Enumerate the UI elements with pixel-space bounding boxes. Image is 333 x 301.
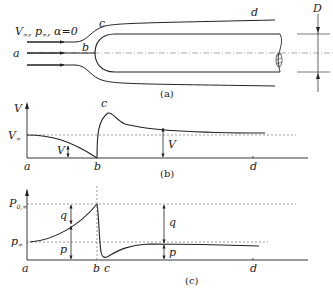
point-b-label: b — [94, 160, 101, 173]
p-label: p — [169, 246, 176, 259]
panel-c: P0,∞ p∞ q p q p a b c d (c) — [8, 186, 308, 286]
velocity-arrow-label: V — [168, 138, 177, 151]
dimension-arrow-icon — [316, 73, 320, 79]
axis-arrow-icon — [25, 102, 29, 109]
p-inf-label: p∞ — [11, 235, 23, 248]
point-c-label: c — [101, 97, 107, 110]
freestream-label: V∞, p∞, α=0 — [15, 25, 78, 38]
p0-inf-label: P0,∞ — [8, 197, 27, 210]
panel-a: D V∞, p∞, α=0 a b c d (a) — [13, 2, 333, 99]
v-inf-label: V∞ — [8, 129, 21, 142]
dimension-arrow-icon — [316, 27, 320, 33]
point-a-label: a — [13, 47, 20, 60]
caption-b: (b) — [160, 168, 174, 179]
diagram-svg: D V∞, p∞, α=0 a b c d (a) V V∞ V V c a b… — [0, 0, 333, 301]
p-label: p — [60, 243, 67, 256]
pressure-curve-surface — [97, 204, 259, 257]
point-b-label: b — [93, 262, 100, 275]
point-c-label: c — [104, 262, 110, 275]
panel-b: V V∞ V V c a b d (b) — [8, 97, 308, 179]
point-a-label: a — [24, 160, 31, 173]
axis-arrow-icon — [25, 189, 29, 196]
point-a-label: a — [22, 262, 29, 275]
point-d-label: d — [250, 160, 257, 173]
dimension-label: D — [312, 2, 322, 15]
figure: D V∞, p∞, α=0 a b c d (a) V V∞ V V c a b… — [0, 0, 333, 301]
velocity-curve-surface — [97, 113, 265, 158]
y-axis-label: V — [14, 102, 23, 115]
caption-a: (a) — [160, 88, 174, 99]
q-label: q — [169, 216, 176, 229]
point-d-label: d — [250, 262, 257, 275]
velocity-arrow-label: V — [57, 144, 66, 157]
q-label: q — [60, 209, 67, 222]
point-c-label: c — [99, 17, 105, 30]
point-d-label: d — [251, 6, 258, 19]
point-b-label: b — [82, 41, 89, 54]
caption-c: (c) — [185, 275, 199, 286]
lower-streamline — [27, 65, 275, 86]
